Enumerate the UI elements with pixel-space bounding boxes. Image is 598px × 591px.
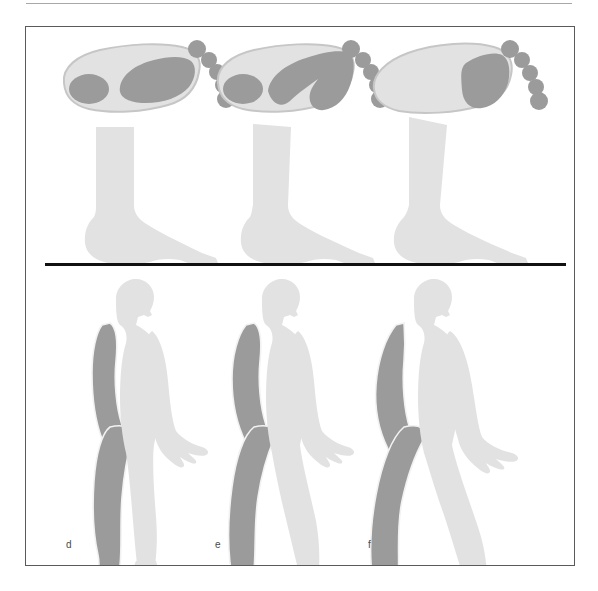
walker-f-near-arm: [445, 331, 518, 473]
footprint-d-heel-pressure: [69, 74, 109, 104]
walker-d-near-foot: [133, 561, 192, 565]
foot-side-e: [241, 124, 375, 264]
walker-d: [91, 279, 208, 565]
foot-side-f-silhouette: [394, 117, 528, 264]
top-horizontal-rule: [26, 3, 572, 4]
walker-f-far-leg: [370, 426, 425, 565]
footprint-f-toe-3-icon: [522, 65, 538, 81]
panel-label-e: e: [215, 539, 221, 550]
page-root: d e f: [0, 0, 598, 591]
footprint-e: [218, 40, 389, 112]
figure-illustration-layer: [26, 27, 574, 565]
foot-side-d-silhouette: [85, 127, 218, 264]
walker-f: [367, 279, 528, 565]
footprint-f-toe-5-icon: [530, 92, 548, 110]
ground-reference-line: [45, 263, 566, 266]
footprint-e-heel-pressure: [223, 74, 263, 104]
footprint-d: [64, 40, 235, 112]
walker-d-near-arm: [145, 331, 208, 467]
panel-label-f: f: [368, 539, 371, 550]
walker-e-near-arm: [291, 331, 354, 467]
foot-side-e-silhouette: [241, 124, 375, 264]
foot-side-f: [394, 117, 528, 264]
footprint-f: [374, 40, 548, 113]
panel-label-d: d: [66, 539, 72, 550]
walker-e: [225, 279, 358, 565]
figure-frame: d e f: [25, 26, 575, 566]
walker-e-far-leg: [228, 426, 275, 565]
footprint-f-forefoot-pressure: [461, 53, 509, 108]
foot-side-d: [85, 127, 218, 264]
